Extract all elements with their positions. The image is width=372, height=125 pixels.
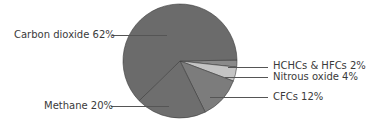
pie-slices (123, 4, 237, 118)
label-carbon-dioxide: Carbon dioxide 62% (14, 29, 115, 41)
label-cfcs: CFCs 12% (273, 91, 323, 103)
leader-methane (111, 106, 169, 107)
leader-nitrous (225, 77, 268, 78)
leader-hchc (228, 67, 268, 68)
leader-co2 (112, 35, 167, 36)
label-nitrous-oxide: Nitrous oxide 4% (273, 71, 358, 83)
label-methane: Methane 20% (44, 100, 113, 112)
leader-cfcs (210, 97, 268, 98)
